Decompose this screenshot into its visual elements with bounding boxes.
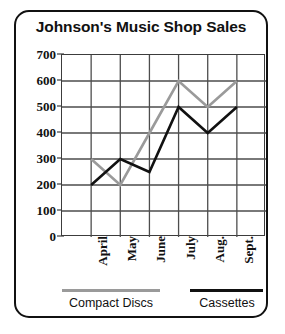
plot-area [61, 54, 265, 236]
legend-swatch-compact-discs [62, 289, 160, 292]
x-tick-label: Sept. [242, 236, 256, 292]
plot-svg [62, 55, 266, 237]
y-tick-label: 500 [12, 100, 56, 113]
y-tick-label: 600 [12, 74, 56, 87]
y-tick-label: 100 [12, 204, 56, 217]
y-axis: 0100200300400500600700 [8, 0, 56, 334]
x-tick-label: June [154, 236, 168, 292]
x-tick-label: May [125, 236, 139, 292]
legend-label-compact-discs: Compact Discs [52, 296, 170, 310]
y-tick-label: 400 [12, 126, 56, 139]
y-tick-label: 0 [12, 230, 56, 243]
y-tick-label: 200 [12, 178, 56, 191]
x-tick-label: April [96, 236, 110, 292]
y-tick-label: 300 [12, 152, 56, 165]
x-tick-label: Aug. [213, 236, 227, 292]
x-axis: AprilMayJuneJulyAug.Sept. [61, 238, 265, 294]
chart-legend: Compact Discs Cassettes [0, 289, 285, 313]
legend-label-cassettes: Cassettes [182, 296, 272, 310]
y-tick-label: 700 [12, 48, 56, 61]
legend-swatch-cassettes [190, 289, 263, 292]
series-line-cassettes [91, 107, 237, 185]
x-tick-label: July [184, 236, 198, 292]
